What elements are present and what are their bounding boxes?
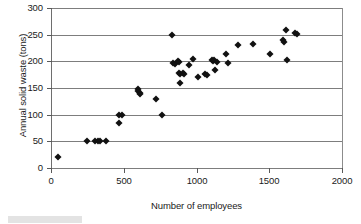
y-tick-label: 200 (17, 56, 43, 66)
data-point (177, 79, 184, 86)
x-tick-label: 2000 (322, 176, 361, 186)
x-axis-title: Number of employees (51, 200, 342, 211)
x-tick-mark (51, 168, 52, 173)
gridline-horizontal (51, 88, 342, 89)
y-tick-mark (47, 88, 52, 89)
y-tick-label: 50 (17, 136, 43, 146)
gridline-horizontal (51, 8, 342, 9)
data-point (212, 66, 219, 73)
y-tick-label: 150 (17, 83, 43, 93)
scan-artifact (8, 216, 82, 223)
data-point (169, 32, 176, 39)
data-point (186, 62, 193, 69)
x-tick-label: 0 (31, 176, 71, 186)
plot-area (51, 8, 342, 168)
x-tick-mark (197, 168, 198, 173)
y-tick-mark (47, 8, 52, 9)
y-tick-label: 250 (17, 30, 43, 40)
data-point (194, 73, 201, 80)
x-tick-label: 1000 (177, 176, 217, 186)
gridline-horizontal (51, 61, 342, 62)
gridline-horizontal (51, 115, 342, 116)
data-point (83, 138, 90, 145)
data-point (103, 138, 110, 145)
data-point (224, 60, 231, 67)
x-tick-label: 1500 (249, 176, 289, 186)
data-point (284, 57, 291, 64)
data-point (119, 111, 126, 118)
data-point (266, 51, 273, 58)
y-tick-mark (47, 61, 52, 62)
y-tick-label: 100 (17, 110, 43, 120)
x-tick-mark (342, 168, 343, 173)
y-tick-mark (47, 115, 52, 116)
y-tick-label: 0 (17, 163, 43, 173)
data-point (136, 91, 143, 98)
data-point (222, 51, 229, 58)
data-point (158, 111, 165, 118)
y-tick-label: 300 (17, 3, 43, 13)
y-tick-mark (47, 35, 52, 36)
data-point (213, 59, 220, 66)
data-point (55, 153, 62, 160)
x-tick-label: 500 (104, 176, 144, 186)
scatter-chart: Annual solid waste (tons) Number of empl… (0, 0, 361, 224)
data-point (250, 41, 257, 48)
y-tick-mark (47, 141, 52, 142)
data-point (234, 42, 241, 49)
plot-right-border (342, 8, 343, 169)
data-point (116, 119, 123, 126)
data-point (282, 27, 289, 34)
x-tick-mark (269, 168, 270, 173)
x-tick-mark (124, 168, 125, 173)
data-point (153, 95, 160, 102)
